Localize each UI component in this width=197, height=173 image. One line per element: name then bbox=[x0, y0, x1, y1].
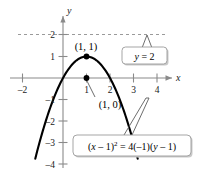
y-axis bbox=[60, 16, 65, 168]
directrix-leader bbox=[142, 35, 152, 48]
y-tick-label--3: –3 bbox=[45, 138, 56, 148]
parabola-figure: y x –2 1 2 3 4 2 1 –1 –2 –3 –4 (1, 1) (1… bbox=[0, 0, 197, 173]
y-tick-label--1: –1 bbox=[45, 95, 56, 105]
y-tick-label-2: 2 bbox=[50, 30, 55, 40]
x-axis-label: x bbox=[175, 72, 181, 83]
equation-rhs: = 4(–1)( bbox=[118, 141, 154, 153]
equation-label: (x – 1)2 = 4(–1)(y – 1) bbox=[88, 140, 176, 153]
x-tick-label-1: 1 bbox=[84, 85, 89, 95]
x-tick-label-3: 3 bbox=[131, 85, 136, 95]
directrix-label-rest: = 2 bbox=[139, 51, 155, 62]
y-tick-label-1: 1 bbox=[50, 52, 55, 62]
x-tick-label--2: –2 bbox=[17, 85, 28, 95]
x-tick-label-4: 4 bbox=[155, 85, 160, 95]
x-tick-label-2: 2 bbox=[108, 85, 113, 95]
point-1-0-label: (1, 0) bbox=[99, 99, 122, 111]
equation-rhs-end: – 1) bbox=[158, 141, 176, 153]
point-1-0 bbox=[84, 75, 90, 81]
y-tick-label--2: –2 bbox=[45, 117, 56, 127]
vertex-point bbox=[84, 54, 90, 60]
y-tick-label--4: –4 bbox=[45, 160, 56, 170]
equation-lhs-rest: – 1) bbox=[96, 141, 114, 153]
x-axis bbox=[10, 75, 172, 80]
equation-leader bbox=[124, 98, 149, 135]
vertex-label: (1, 1) bbox=[75, 41, 98, 53]
y-axis-label: y bbox=[66, 5, 72, 16]
directrix-label: y = 2 bbox=[133, 51, 154, 62]
